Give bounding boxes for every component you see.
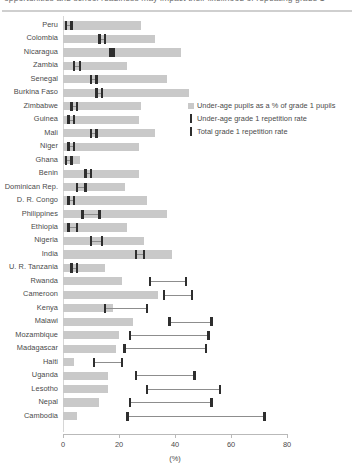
- row-track: [63, 21, 354, 29]
- legend: Under-age pupils as a % of grade 1 pupil…: [188, 100, 352, 139]
- underage-share-bar: [63, 75, 167, 83]
- underage-repetition-tick: [129, 331, 131, 340]
- country-label: Kenya: [0, 303, 58, 312]
- row-track: [63, 385, 354, 393]
- country-label: Malawi: [0, 316, 58, 325]
- underage-repetition-tick: [70, 263, 72, 272]
- underage-share-bar: [63, 291, 158, 299]
- x-tick: [287, 434, 288, 438]
- total-repetition-tick: [219, 385, 221, 394]
- total-repetition-tick: [76, 263, 78, 272]
- underage-repetition-tick: [90, 236, 92, 245]
- underage-share-bar: [63, 21, 141, 29]
- country-label: Peru: [0, 20, 58, 29]
- row-track: [63, 62, 354, 70]
- total-repetition-tick: [121, 358, 123, 367]
- row-track: [63, 345, 354, 353]
- underage-share-bar: [63, 277, 122, 285]
- x-tick: [231, 434, 232, 438]
- country-label: Ethiopia: [0, 222, 58, 231]
- underage-share-bar: [63, 385, 108, 393]
- row-track: [63, 264, 354, 272]
- row-track: [63, 372, 354, 380]
- underage-repetition-tick: [95, 88, 97, 97]
- underage-repetition-tick: [67, 196, 69, 205]
- total-repetition-tick: [73, 142, 75, 151]
- repetition-range-line: [125, 348, 206, 349]
- underage-repetition-tick: [168, 317, 170, 326]
- repetition-range-line: [105, 308, 147, 309]
- row-track: [63, 35, 354, 43]
- underage-repetition-tick: [129, 398, 131, 407]
- country-label: Nepal: [0, 397, 58, 406]
- underage-share-bar: [63, 331, 119, 339]
- chart-root: opportunities and school readiness may i…: [0, 0, 354, 475]
- country-label: Haiti: [0, 357, 58, 366]
- repetition-range-line: [127, 416, 264, 417]
- row-track: [63, 291, 354, 299]
- legend-item-underage-share: Under-age pupils as a % of grade 1 pupil…: [188, 100, 352, 112]
- total-repetition-tick: [95, 129, 97, 138]
- underage-share-bar: [63, 183, 125, 191]
- row-track: [63, 358, 354, 366]
- row-track: [63, 331, 354, 339]
- clipped-title-strip: opportunities and school readiness may i…: [0, 0, 354, 9]
- total-repetition-tick: [210, 398, 212, 407]
- total-repetition-tick: [79, 61, 81, 70]
- total-repetition-tick: [98, 210, 100, 219]
- underage-share-bar: [63, 250, 172, 258]
- total-repetition-tick: [73, 196, 75, 205]
- total-repetition-tick: [263, 412, 265, 421]
- country-label: Nigeria: [0, 235, 58, 244]
- total-repetition-tick: [210, 317, 212, 326]
- underage-repetition-tick: [65, 156, 67, 165]
- bar-swatch-icon: [188, 103, 194, 108]
- plot-area: PeruColombiaNicaraguaZambiaSenegalBurkin…: [0, 16, 354, 432]
- underage-repetition-tick: [135, 250, 137, 259]
- underage-repetition-tick: [67, 115, 69, 124]
- row-track: [63, 196, 354, 204]
- underage-repetition-tick: [104, 304, 106, 313]
- underage-repetition-tick: [84, 169, 86, 178]
- total-repetition-tick: [185, 277, 187, 286]
- underage-share-bar: [63, 398, 99, 406]
- country-label: Senegal: [0, 74, 58, 83]
- underage-repetition-tick: [73, 61, 75, 70]
- country-label: Rwanda: [0, 276, 58, 285]
- total-repetition-tick: [90, 169, 92, 178]
- row-track: [63, 318, 354, 326]
- country-label: Ghana: [0, 155, 58, 164]
- total-repetition-tick: [205, 344, 207, 353]
- country-label: Burkina Faso: [0, 87, 58, 96]
- underage-repetition-tick: [65, 21, 67, 30]
- row-track: [63, 156, 354, 164]
- x-tick-label: 80: [283, 440, 291, 449]
- tick-swatch-icon: [190, 114, 192, 123]
- repetition-range-line: [130, 335, 208, 336]
- underage-share-bar: [63, 358, 74, 366]
- underage-share-bar: [63, 196, 147, 204]
- country-label: Colombia: [0, 33, 58, 42]
- underage-repetition-tick: [70, 102, 72, 111]
- row-track: [63, 237, 354, 245]
- repetition-range-line: [164, 295, 192, 296]
- repetition-range-line: [169, 322, 211, 323]
- underage-share-bar: [63, 48, 181, 56]
- country-label: Cambodia: [0, 411, 58, 420]
- country-label: Madagascar: [0, 343, 58, 352]
- row-track: [63, 170, 354, 178]
- country-label: Niger: [0, 141, 58, 150]
- underage-share-bar: [63, 129, 155, 137]
- legend-label: Under-age pupils as a % of grade 1 pupil…: [197, 101, 335, 110]
- total-repetition-tick: [70, 156, 72, 165]
- tick-swatch-icon: [190, 127, 192, 136]
- row-track: [63, 304, 354, 312]
- total-repetition-tick: [193, 371, 195, 380]
- total-repetition-tick: [207, 331, 209, 340]
- x-tick: [175, 434, 176, 438]
- underage-repetition-tick: [98, 34, 100, 43]
- row-track: [63, 398, 354, 406]
- country-label: Nicaragua: [0, 47, 58, 56]
- row-track: [63, 75, 354, 83]
- country-label: Zimbabwe: [0, 101, 58, 110]
